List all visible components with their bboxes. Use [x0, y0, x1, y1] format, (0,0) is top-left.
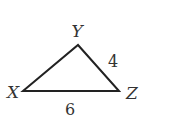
vertex-label-y: Y: [71, 21, 84, 41]
side-label-xz: 6: [65, 100, 75, 118]
side-label-yz: 4: [108, 52, 118, 71]
triangle-xyz: [23, 45, 119, 91]
triangle-diagram: Y X Z 4 6: [0, 0, 177, 118]
vertex-label-x: X: [5, 82, 20, 102]
vertex-label-z: Z: [125, 83, 139, 103]
